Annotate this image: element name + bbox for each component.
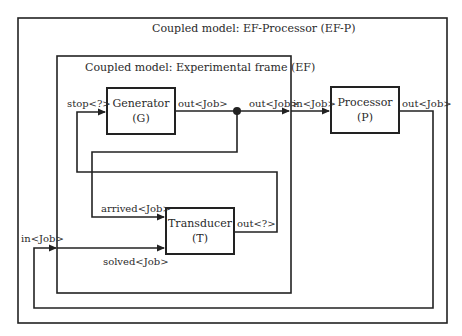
port-trans-arrived: arrived<Job>	[101, 203, 171, 214]
port-trans-solved: solved<Job>	[103, 256, 169, 267]
port-proc-out: out<Job>	[402, 98, 452, 109]
port-gen-stop: stop<?>	[67, 98, 111, 109]
generator-block[interactable]: Generator (G)	[106, 87, 176, 135]
processor-block[interactable]: Processor (P)	[330, 86, 400, 134]
processor-abbr: (P)	[357, 110, 373, 125]
port-ef-out: out<Job>	[249, 98, 299, 109]
port-trans-out: out<?>	[237, 218, 276, 229]
port-ef-in: in<Job>	[21, 233, 64, 244]
generator-name: Generator	[112, 96, 169, 111]
outer-model-title: Coupled model: EF-Processor (EF-P)	[152, 22, 355, 35]
transducer-name: Transducer	[168, 216, 232, 231]
processor-name: Processor	[337, 95, 392, 110]
diagram-wires	[0, 0, 462, 336]
transducer-block[interactable]: Transducer (T)	[165, 207, 235, 255]
ef-model-title: Coupled model: Experimental frame (EF)	[85, 61, 315, 74]
port-gen-out: out<Job>	[178, 98, 228, 109]
transducer-abbr: (T)	[192, 231, 208, 246]
port-proc-in: in<Job>	[293, 98, 336, 109]
generator-abbr: (G)	[132, 111, 149, 126]
